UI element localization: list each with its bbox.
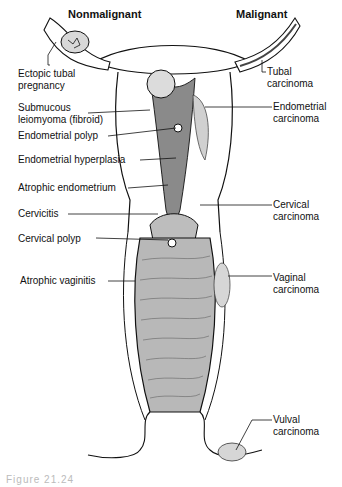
vaginal-canal [135, 238, 215, 412]
label-ectopic-tubal-pregnancy: Ectopic tubal pregnancy [18, 68, 75, 92]
label-cervicitis: Cervicitis [18, 208, 59, 220]
cervical-polyp [168, 239, 176, 247]
label-endometrial-carcinoma: Endometrial carcinoma [273, 101, 326, 125]
label-endometrial-polyp: Endometrial polyp [18, 130, 98, 142]
endometrial-carcinoma-region [193, 95, 208, 160]
vaginal-carcinoma-mass [214, 263, 230, 307]
endometrial-cavity [150, 78, 195, 232]
label-atrophic-endometrium: Atrophic endometrium [18, 182, 116, 194]
ectopic-pregnancy-sac [61, 31, 89, 53]
uterine-fundus [95, 46, 250, 75]
label-cervical-polyp: Cervical polyp [18, 233, 81, 245]
label-cervical-carcinoma: Cervical carcinoma [273, 199, 319, 223]
label-vaginal-carcinoma: Vaginal carcinoma [273, 272, 319, 296]
figure-caption: Figure 21.24 [6, 474, 74, 485]
label-atrophic-vaginitis: Atrophic vaginitis [20, 275, 96, 287]
label-tubal-carcinoma: Tubal carcinoma [267, 66, 313, 90]
header-malignant: Malignant [236, 8, 287, 20]
vulva-left [88, 412, 150, 458]
header-nonmalignant: Nonmalignant [68, 8, 141, 20]
label-submucous-leiomyoma: Submucous leiomyoma (fibroid) [18, 102, 103, 126]
vulval-carcinoma-mass [218, 443, 246, 461]
label-endometrial-hyperplasia: Endometrial hyperplasia [18, 154, 125, 166]
fibroid [147, 70, 175, 98]
cervix [150, 214, 198, 240]
label-vulval-carcinoma: Vulval carcinoma [273, 414, 319, 438]
